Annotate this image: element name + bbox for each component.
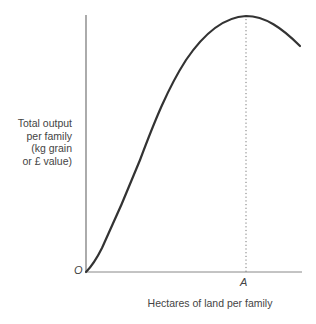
point-a-label: A bbox=[240, 276, 247, 288]
x-axis-label: Hectares of land per family bbox=[110, 297, 310, 309]
y-axis-label-line: per family bbox=[0, 130, 72, 143]
y-axis-label-line: (kg grain bbox=[0, 142, 72, 155]
y-axis-label-line: or £ value) bbox=[0, 155, 72, 168]
y-axis-label-line: Total output bbox=[0, 117, 72, 130]
y-axis-label: Total output per family (kg grain or £ v… bbox=[0, 117, 72, 167]
origin-label: O bbox=[74, 264, 83, 276]
total-output-curve bbox=[86, 16, 300, 272]
